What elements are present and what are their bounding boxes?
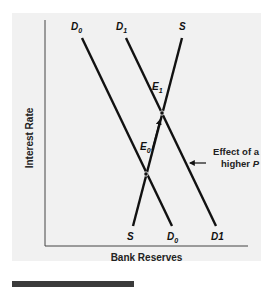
x-axis-label: Bank Reserves bbox=[45, 252, 248, 263]
label-d0-bottom: D0 bbox=[167, 231, 178, 244]
label-e0: E0 bbox=[140, 141, 151, 154]
label-d1-bottom: D1 bbox=[211, 231, 224, 242]
label-d0-top: D0 bbox=[71, 21, 82, 34]
annotation-effect-higher-p: Effect of a higher P bbox=[203, 146, 259, 170]
label-e1: E1 bbox=[152, 81, 163, 94]
y-axis-label: Interest Rate bbox=[24, 108, 35, 169]
annotation-line-2: higher P bbox=[203, 158, 259, 170]
annotation-line-1: Effect of a bbox=[203, 146, 259, 158]
label-s-bottom: S bbox=[127, 231, 134, 242]
label-d1-top: D1 bbox=[116, 21, 127, 34]
equilibrium-point-e0 bbox=[144, 172, 148, 176]
figure-caption-strip bbox=[12, 281, 134, 287]
label-s-top: S bbox=[179, 21, 186, 32]
equilibrium-point-e1 bbox=[160, 111, 164, 115]
shift-arrow bbox=[152, 120, 160, 150]
